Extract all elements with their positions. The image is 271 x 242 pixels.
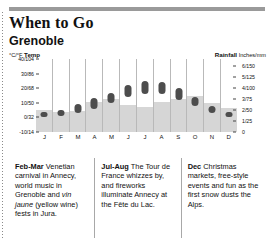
chart-column: [171, 59, 188, 132]
rainfall-bar: [103, 99, 119, 132]
rainfall-tick-mark: [233, 65, 236, 66]
left-dotted-rule: [2, 12, 3, 240]
temp-range-marker: [226, 112, 233, 118]
month-label: M: [70, 132, 87, 143]
panel-lead: Dec: [188, 162, 202, 171]
rainfall-bar: [137, 107, 153, 132]
rainfall-tick-mark: [233, 76, 236, 77]
rainfall-axis-label: Rainfall: [215, 51, 237, 58]
chart-plot-area: 40/10430/8620/6810/500/32-10/146/1505/12…: [36, 59, 237, 132]
highlight-panel-jul-aug: Jul-Aug The Tour de France whizzes by, a…: [95, 158, 181, 238]
chart-column: [53, 59, 70, 132]
temp-tick-label: 30/86: [21, 71, 36, 77]
temp-range-marker: [74, 104, 81, 113]
temp-tick-label: 40/104: [18, 56, 36, 62]
chart-column: [187, 59, 204, 132]
rainfall-tick-mark: [233, 109, 236, 110]
rainfall-tick-mark: [233, 87, 236, 88]
top-rule: [9, 7, 265, 11]
when-to-go-card: When to Go Grenoble °C/°F Temp Rainfall …: [0, 0, 271, 242]
destination-subtitle: Grenoble: [9, 34, 64, 48]
temp-range-marker: [108, 93, 115, 103]
month-label: O: [187, 132, 204, 143]
temp-tick-label: -10/14: [19, 129, 36, 135]
temp-tick-mark: [36, 117, 39, 118]
chart-column: [70, 59, 87, 132]
temp-range-marker: [125, 85, 132, 97]
rainfall-tick-label: 3/75: [237, 96, 252, 102]
page-title: When to Go: [9, 14, 94, 32]
rainfall-tick-label: 1/25: [237, 118, 252, 124]
rainfall-bar: [120, 105, 136, 132]
month-label: F: [53, 132, 70, 143]
temp-range-marker: [192, 97, 199, 106]
chart-column: [120, 59, 137, 132]
rainfall-bar: [70, 111, 86, 132]
highlight-panels: Feb-Mar Venetian carnival in Annecy, wor…: [9, 158, 267, 238]
month-label: D: [220, 132, 237, 143]
chart-column: [154, 59, 171, 132]
chart-column: [36, 59, 53, 132]
temp-range-marker: [91, 98, 98, 108]
temp-tick-label: 10/50: [21, 100, 36, 106]
rainfall-tick-label: 5/125: [237, 74, 255, 80]
month-label: A: [153, 132, 170, 143]
month-label: S: [170, 132, 187, 143]
temp-tick-label: 20/68: [21, 85, 36, 91]
panel-lead: Jul-Aug: [101, 162, 129, 171]
climate-chart: 40/10430/8620/6810/500/32-10/146/1505/12…: [9, 59, 265, 143]
month-label: N: [204, 132, 221, 143]
chart-column: [204, 59, 221, 132]
temp-tick-mark: [36, 59, 39, 60]
rainfall-tick-label: 6/150: [237, 63, 255, 69]
month-label: J: [137, 132, 154, 143]
rainfall-axis-unit: Inches/mm: [239, 52, 266, 58]
rainfall-tick-mark: [233, 98, 236, 99]
month-label: J: [120, 132, 137, 143]
rainfall-tick-label: 0: [237, 129, 245, 135]
month-label: J: [36, 132, 53, 143]
chart-column: [103, 59, 120, 132]
chart-column: [137, 59, 154, 132]
chart-month-labels: JFMAMJJASOND: [36, 132, 237, 143]
chart-column: [86, 59, 103, 132]
temp-tick-mark: [36, 73, 39, 74]
temp-tick-label: 0/32: [24, 114, 36, 120]
month-label: A: [86, 132, 103, 143]
highlight-panel-dec: Dec Christmas markets, free-style events…: [182, 158, 267, 238]
rainfall-bar: [171, 99, 187, 132]
rainfall-tick-mark: [233, 120, 236, 121]
temp-range-marker: [158, 82, 165, 94]
temp-tick-mark: [36, 102, 39, 103]
rainfall-tick-label: 2/50: [237, 107, 252, 113]
temp-range-marker: [57, 110, 64, 116]
rainfall-axis-caption: Rainfall Inches/mm: [215, 51, 266, 58]
highlight-panel-feb-mar: Feb-Mar Venetian carnival in Annecy, wor…: [9, 158, 95, 238]
panel-lead: Feb-Mar: [15, 162, 44, 171]
temp-tick-mark: [36, 88, 39, 89]
temp-range-marker: [40, 112, 47, 118]
rainfall-bar: [154, 102, 170, 132]
temp-range-marker: [175, 88, 182, 100]
month-label: M: [103, 132, 120, 143]
rainfall-tick-label: 4/100: [237, 85, 255, 91]
temp-range-marker: [141, 81, 148, 94]
chart-columns: [36, 59, 237, 132]
